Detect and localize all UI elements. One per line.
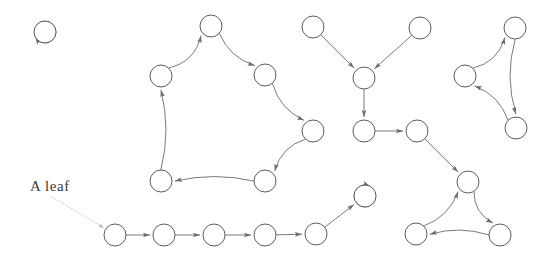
graph-edge (424, 192, 458, 226)
graph-node[interactable] (254, 64, 276, 86)
graph-edge (169, 36, 201, 68)
graph-node[interactable] (354, 185, 376, 207)
graph-node[interactable] (203, 224, 225, 246)
graph-node[interactable] (302, 16, 324, 38)
graph-edge (272, 84, 303, 120)
graph-node[interactable] (254, 224, 276, 246)
graph-node[interactable] (489, 224, 511, 246)
graph-node[interactable] (104, 224, 126, 246)
graph-node[interactable] (200, 15, 222, 37)
graph-edge (475, 86, 508, 120)
graph-edge (325, 205, 354, 227)
graph-edges-layer (36, 21, 516, 235)
graph-edge (375, 36, 412, 69)
graph-node[interactable] (353, 120, 375, 142)
graph-node[interactable] (504, 17, 526, 39)
graph-nodes-layer (34, 15, 527, 246)
graph-node[interactable] (454, 65, 476, 87)
graph-edge (510, 39, 516, 113)
graph-node[interactable] (353, 67, 375, 89)
graph-node[interactable] (150, 65, 172, 87)
graph-edge (175, 177, 253, 182)
graph-node[interactable] (505, 117, 527, 139)
graph-node[interactable] (150, 170, 172, 192)
graph-node[interactable] (305, 223, 327, 245)
graph-node[interactable] (409, 17, 431, 39)
graph-svg: A leaf (0, 0, 543, 259)
graph-edge (425, 139, 458, 172)
graph-node[interactable] (254, 170, 276, 192)
graph-edge (275, 139, 305, 170)
graph-edge (474, 192, 493, 223)
graph-edge (473, 38, 504, 68)
graph-node[interactable] (302, 120, 324, 142)
a-leaf-leader-line (52, 197, 104, 228)
graph-annotations-layer: A leaf (30, 178, 104, 228)
graph-edge (321, 35, 354, 68)
graph-edge (430, 230, 488, 235)
graph-node[interactable] (34, 21, 56, 43)
graph-edge (161, 90, 166, 169)
graph-edge (220, 34, 255, 66)
graph-node[interactable] (457, 171, 479, 193)
graph-node[interactable] (405, 223, 427, 245)
graph-node[interactable] (153, 224, 175, 246)
graph-diagram-canvas: A leaf (0, 0, 543, 259)
graph-node[interactable] (406, 120, 428, 142)
a-leaf-label: A leaf (30, 178, 70, 194)
